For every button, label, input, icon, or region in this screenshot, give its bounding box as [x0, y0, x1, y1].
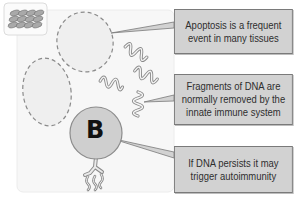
b-cell-label: B — [86, 116, 104, 144]
callout-line: innate immune system — [182, 106, 285, 119]
epithelial-tissue-icon — [4, 3, 47, 35]
callout-line: Fragments of DNA are — [182, 80, 285, 93]
callout-line: event in many tissues — [185, 32, 281, 45]
callout-apoptosis: Apoptosis is a frequent event in many ti… — [174, 9, 293, 54]
callout-autoimmunity: If DNA persists it may trigger autoimmun… — [174, 146, 293, 193]
callout-line: Apoptosis is a frequent — [185, 19, 281, 32]
apoptosis-diagram: B Apoptosis is a frequent event in many … — [0, 0, 303, 199]
callout-line: trigger autoimmunity — [188, 170, 278, 183]
callout-line: If DNA persists it may — [188, 157, 278, 170]
callout-line: normally removed by the — [182, 93, 285, 106]
callout-dna-fragments: Fragments of DNA are normally removed by… — [174, 74, 293, 125]
